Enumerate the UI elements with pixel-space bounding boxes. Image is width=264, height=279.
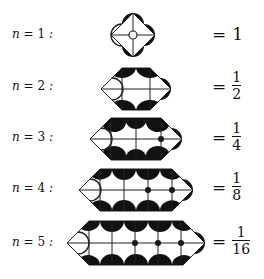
figure-n5 xyxy=(67,221,205,265)
tiling-figures xyxy=(0,0,264,279)
figure-n3 xyxy=(90,118,182,160)
figure-n4 xyxy=(79,169,193,211)
figure-n2 xyxy=(101,68,171,110)
figure-n1 xyxy=(111,13,155,57)
